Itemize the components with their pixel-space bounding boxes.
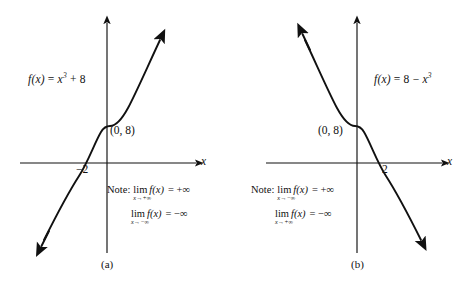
caption-a: (a) xyxy=(101,258,113,270)
figure-two-cubic-graphs: f(x) = x3 + 8 (0, 8) −2 x Note: limf(x) … xyxy=(0,0,467,288)
function-label-a-lhs: f(x) xyxy=(28,73,45,85)
curve-a-left-arrow xyxy=(42,231,50,246)
limit-expression-b-1: limf(x) x→−∞ xyxy=(277,185,308,196)
limit-b-2-lim: lim xyxy=(275,208,289,219)
point-label-b: (0, 8) xyxy=(318,124,343,136)
x-intercept-label-a: −2 xyxy=(76,163,88,175)
function-label-a: f(x) = x3 + 8 xyxy=(28,71,86,85)
note-line-b-2: limf(x) x→+∞ = −∞ xyxy=(251,209,334,220)
limit-b-2-sub: x→+∞ xyxy=(275,219,293,225)
note-block-a: Note: limf(x) x→+∞ = +∞ limf(x) x→−∞ = −… xyxy=(107,185,190,219)
note-word-b: Note: xyxy=(251,185,274,196)
note-line-a-1: Note: limf(x) x→+∞ = +∞ xyxy=(107,185,190,196)
panel-b: f(x) = 8 − x3 (0, 8) 2 x Note: limf(x) x… xyxy=(234,0,467,288)
limit-a-2-result: = −∞ xyxy=(166,209,188,220)
function-label-a-rest: + 8 xyxy=(67,73,86,85)
caption-b: (b) xyxy=(351,258,364,270)
note-line-a-2: limf(x) x→−∞ = −∞ xyxy=(107,209,190,220)
limit-b-1-fn: f(x) xyxy=(293,184,308,195)
note-line-b-1: Note: limf(x) x→−∞ = +∞ xyxy=(251,185,334,196)
graph-b-svg xyxy=(234,0,467,288)
function-label-a-equals: = xyxy=(45,73,58,85)
function-label-b: f(x) = 8 − x3 xyxy=(374,71,432,85)
limit-a-1-sub: x→+∞ xyxy=(133,195,151,201)
panel-a: f(x) = x3 + 8 (0, 8) −2 x Note: limf(x) … xyxy=(0,0,233,288)
limit-a-2-lim: lim xyxy=(131,208,145,219)
limit-b-2-fn: f(x) xyxy=(291,208,306,219)
limit-a-2-top: limf(x) xyxy=(131,208,162,219)
limit-expression-a-1: limf(x) x→+∞ xyxy=(133,185,164,196)
limit-a-2-sub: x→−∞ xyxy=(131,219,149,225)
note-block-b: Note: limf(x) x→−∞ = +∞ limf(x) x→+∞ = −… xyxy=(251,185,334,219)
x-intercept-label-b: 2 xyxy=(382,163,388,175)
graph-a-svg xyxy=(0,0,233,288)
x-axis-label-b: x xyxy=(447,155,452,167)
limit-b-2-top: limf(x) xyxy=(275,208,306,219)
note-word-a: Note: xyxy=(107,185,130,196)
limit-b-1-sub: x→−∞ xyxy=(277,195,295,201)
function-label-b-equals: = 8 − xyxy=(391,73,423,85)
limit-b-1-result: = +∞ xyxy=(312,185,334,196)
point-label-a: (0, 8) xyxy=(110,124,135,136)
function-label-b-lhs: f(x) xyxy=(374,73,391,85)
x-axis-label-a: x xyxy=(201,155,206,167)
limit-a-1-result: = +∞ xyxy=(168,185,190,196)
limit-expression-b-2: limf(x) x→+∞ xyxy=(275,209,306,220)
limit-a-1-fn: f(x) xyxy=(149,184,164,195)
curve-b-left-arrow xyxy=(303,34,311,50)
function-label-b-exponent: 3 xyxy=(428,71,432,80)
limit-b-2-result: = −∞ xyxy=(310,209,332,220)
limit-a-2-fn: f(x) xyxy=(147,208,162,219)
limit-expression-a-2: limf(x) x→−∞ xyxy=(131,209,162,220)
